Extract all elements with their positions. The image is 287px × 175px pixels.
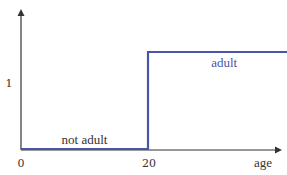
annotation-label: not adult [62, 132, 108, 147]
y-tick-label: 1 [6, 77, 13, 90]
x-tick-label: 0 [18, 157, 25, 170]
x-tick-label: 20 [142, 157, 156, 170]
tick-labels: 0201 [6, 77, 157, 170]
annotation-label: adult [211, 55, 237, 70]
annotations: not adultadult [62, 55, 238, 147]
y-axis-arrow-icon [18, 9, 25, 16]
x-axis-label: age [254, 155, 272, 170]
step-chart: 0201 not adultadult age [0, 0, 287, 175]
axes [18, 9, 283, 154]
x-axis-arrow-icon [275, 147, 282, 154]
